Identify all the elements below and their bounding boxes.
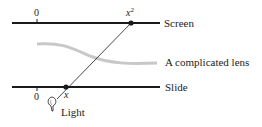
screen-label: Screen xyxy=(164,17,194,29)
light-label: Light xyxy=(61,106,85,118)
slide-point-label: x xyxy=(63,89,69,100)
lens-label: A complicated lens xyxy=(165,56,249,68)
light-bulb-icon xyxy=(48,97,56,111)
screen-point xyxy=(128,20,133,25)
screen-zero-label: 0 xyxy=(34,7,39,18)
screen-point-label: x2 xyxy=(125,6,134,18)
lens-curve xyxy=(37,44,157,64)
slide-point xyxy=(63,84,68,89)
lens-diagram: 0 x2 Screen A complicated lens 0 x Slide… xyxy=(0,0,262,127)
slide-zero-label: 0 xyxy=(34,91,39,102)
slide-label: Slide xyxy=(165,81,188,93)
